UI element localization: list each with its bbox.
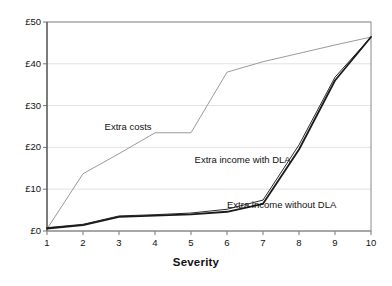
x-tick-label: 10 [356,238,386,248]
x-tick-label: 1 [32,238,62,248]
x-tick-label: 9 [320,238,350,248]
x-tick-label: 4 [140,238,170,248]
x-tick-label: 3 [104,238,134,248]
x-tick-label: 8 [284,238,314,248]
chart-container: £0£10£20£30£40£50 12345678910 Extra cost… [0,0,392,286]
y-tick-label: £20 [25,142,41,152]
y-tick-label: £30 [25,101,41,111]
x-tick-label: 2 [68,238,98,248]
annotation-0: Extra costs [105,121,152,132]
y-tick-label: £10 [25,184,41,194]
y-tick-label: £0 [30,226,41,236]
annotation-1: Extra income with DLA [195,154,291,165]
y-tick-label: £50 [25,17,41,27]
x-tick-label: 5 [176,238,206,248]
x-tick-label: 6 [212,238,242,248]
x-axis-title: Severity [0,256,392,268]
x-tick-label: 7 [248,238,278,248]
annotation-2: Extra income without DLA [227,199,336,210]
y-tick-label: £40 [25,59,41,69]
x-axis-tick-marks [47,231,371,235]
